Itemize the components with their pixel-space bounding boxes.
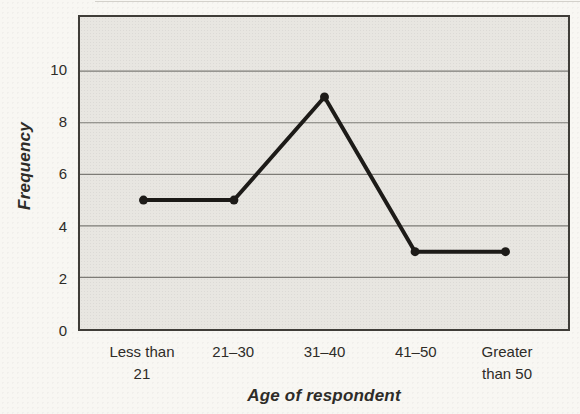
x-tick-label: 31–40 xyxy=(285,341,363,363)
data-point-marker xyxy=(411,247,420,256)
data-point-marker xyxy=(320,93,329,102)
y-tick-label: 0 xyxy=(18,322,67,340)
data-point-marker xyxy=(229,196,238,205)
y-tick-label: 8 xyxy=(18,113,67,131)
x-tick-label: Less than 21 xyxy=(103,341,181,385)
plot-area xyxy=(78,15,570,331)
x-axis-title: Age of respondent xyxy=(224,386,424,406)
y-tick-label: 10 xyxy=(18,61,67,79)
x-tick-label: 21–30 xyxy=(194,341,272,363)
data-point-marker xyxy=(501,247,510,256)
scan-artifact-line xyxy=(95,1,580,2)
chart-canvas xyxy=(80,17,568,329)
data-point-marker xyxy=(139,196,148,205)
y-tick-label: 6 xyxy=(18,165,67,183)
y-tick-label: 4 xyxy=(18,218,67,236)
x-tick-label: Greater than 50 xyxy=(468,341,546,385)
y-tick-label: 2 xyxy=(18,270,67,288)
frequency-line-chart-figure: Frequency 0246810 Less than 2121–3031–40… xyxy=(0,0,580,414)
x-tick-label: 41–50 xyxy=(377,341,455,363)
